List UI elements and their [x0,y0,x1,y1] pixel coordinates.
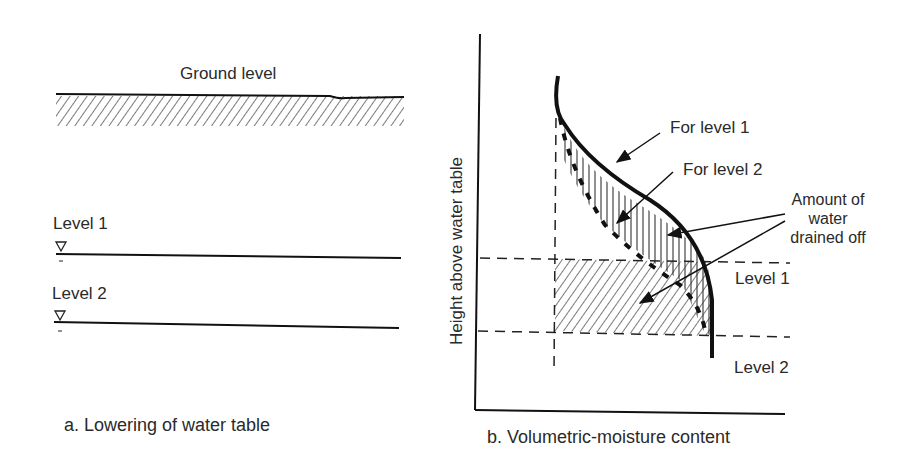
ground-level-label: Ground level [180,64,276,84]
water-table-level-2 [54,311,399,331]
caption-b: b. Volumetric-moisture content [487,427,730,448]
water-table-level-1 [56,242,401,261]
drained-off-label: Amount of water drained off [778,190,878,247]
ground-surface [50,94,410,132]
for-level-1-label: For level 1 [670,118,749,138]
x-axis [475,410,785,414]
water-table-icon [56,242,66,251]
y-axis [475,34,480,410]
vertical-dashed [554,118,556,372]
caption-a: a. Lowering of water table [64,415,270,436]
level-2-label: Level 2 [52,284,107,304]
level-1-b-label: Level 1 [735,269,790,289]
water-table-icon [55,311,65,320]
level-2-b-label: Level 2 [734,358,789,378]
y-axis-label: Height above water table [447,157,467,345]
for-level-2-label: For level 2 [683,160,762,180]
level-1-label: Level 1 [53,214,108,234]
